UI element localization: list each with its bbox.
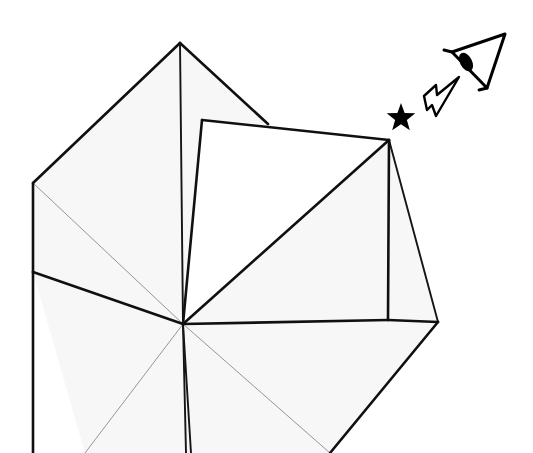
star-symbol (387, 103, 416, 130)
arrow-icon (424, 77, 459, 116)
origami-diagram-svg (0, 0, 533, 453)
star-icon (387, 103, 416, 130)
origami-diagram-canvas (0, 0, 533, 453)
eye-lash-line-icon (444, 50, 452, 52)
edge-flap-right-side (388, 140, 389, 320)
paper-faces-group (33, 43, 438, 453)
eye-pupil-icon (456, 50, 476, 73)
arrow-symbol (424, 77, 459, 116)
eye-tail-line-icon (479, 88, 487, 90)
